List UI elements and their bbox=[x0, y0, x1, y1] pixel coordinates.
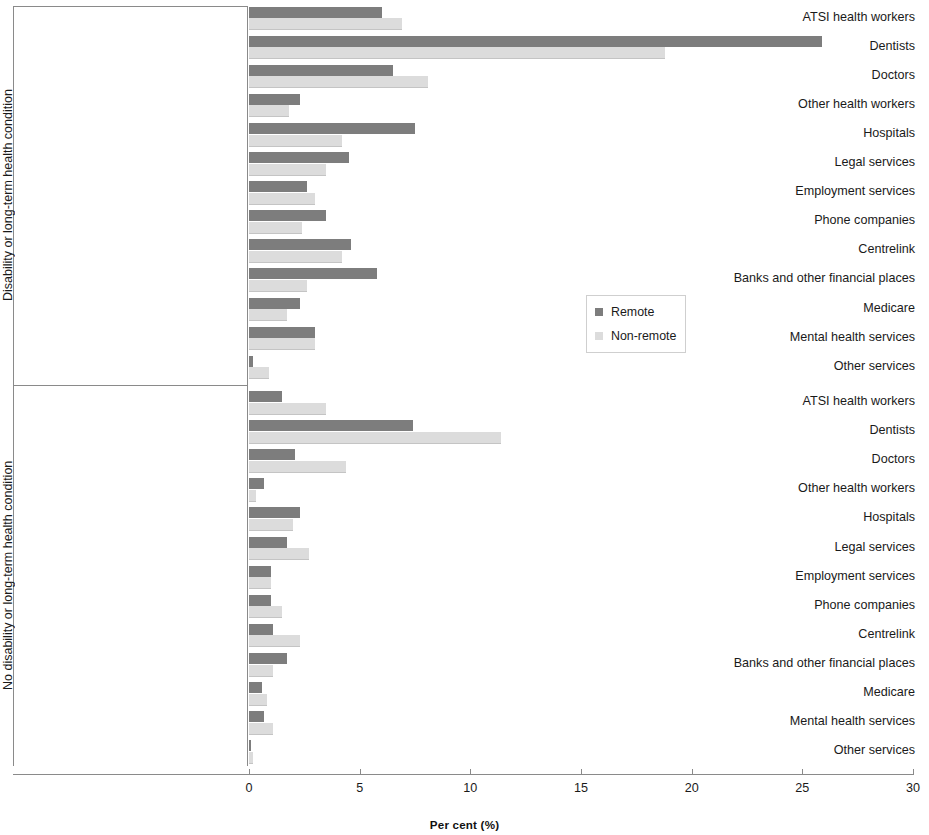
bar-non-remote bbox=[249, 251, 342, 263]
bar-non-remote bbox=[249, 105, 289, 117]
bar-remote bbox=[249, 740, 251, 751]
legend-label-remote: Remote bbox=[611, 305, 654, 319]
category-label: ATSI health workers bbox=[694, 11, 929, 24]
x-axis-title: Per cent (%) bbox=[0, 818, 929, 831]
bar-non-remote bbox=[249, 490, 256, 502]
x-tick-label: 5 bbox=[340, 781, 380, 795]
x-tick-label: 25 bbox=[782, 781, 822, 795]
x-tick bbox=[913, 769, 914, 775]
bar-non-remote bbox=[249, 18, 402, 30]
bar-remote bbox=[249, 711, 264, 722]
bar-remote bbox=[249, 181, 307, 192]
bar-remote bbox=[249, 566, 271, 577]
category-label: Doctors bbox=[694, 453, 929, 466]
bar-non-remote bbox=[249, 432, 501, 444]
legend-item-non-remote: Non-remote bbox=[595, 329, 676, 343]
bar-non-remote bbox=[249, 47, 665, 59]
category-label: Mental health services bbox=[694, 715, 929, 728]
plot-area: Disability or long-term health condition… bbox=[0, 0, 929, 775]
bar-non-remote bbox=[249, 694, 267, 706]
category-label: Banks and other financial places bbox=[694, 657, 929, 670]
bar-remote bbox=[249, 391, 282, 402]
bar-remote bbox=[249, 268, 377, 279]
bar-remote bbox=[249, 653, 287, 664]
bar-remote bbox=[249, 537, 287, 548]
panel-no-disability-border bbox=[13, 385, 248, 766]
category-label: Centrelink bbox=[694, 243, 929, 256]
category-label: Other services bbox=[694, 360, 929, 373]
bar-remote bbox=[249, 507, 300, 518]
bar-non-remote bbox=[249, 338, 315, 350]
group-axis-title-no-disability: No disability or long-term health condit… bbox=[0, 385, 16, 766]
category-label: Mental health services bbox=[694, 331, 929, 344]
bar-non-remote bbox=[249, 309, 287, 321]
category-label: Medicare bbox=[694, 302, 929, 315]
bar-remote bbox=[249, 36, 822, 47]
x-tick bbox=[360, 769, 361, 775]
bar-non-remote bbox=[249, 461, 346, 473]
category-label: Employment services bbox=[694, 570, 929, 583]
bar-non-remote bbox=[249, 577, 271, 589]
bar-remote bbox=[249, 152, 349, 163]
bar-non-remote bbox=[249, 403, 326, 415]
bar-remote bbox=[249, 7, 382, 18]
x-tick-label: 20 bbox=[672, 781, 712, 795]
legend-swatch-remote-icon bbox=[595, 308, 603, 316]
category-label: Legal services bbox=[694, 156, 929, 169]
legend-item-remote: Remote bbox=[595, 305, 654, 319]
x-tick-label: 0 bbox=[229, 781, 269, 795]
bar-non-remote bbox=[249, 164, 326, 176]
category-label: Dentists bbox=[694, 424, 929, 437]
bar-non-remote bbox=[249, 635, 300, 647]
category-label: Employment services bbox=[694, 185, 929, 198]
bar-remote bbox=[249, 94, 300, 105]
bar-non-remote bbox=[249, 519, 293, 531]
bar-remote bbox=[249, 449, 295, 460]
bar-remote bbox=[249, 298, 300, 309]
category-label: Hospitals bbox=[694, 127, 929, 140]
bar-remote bbox=[249, 65, 393, 76]
category-label: Other services bbox=[694, 744, 929, 757]
bar-remote bbox=[249, 239, 351, 250]
bar-chart: Disability or long-term health condition… bbox=[0, 0, 929, 835]
category-label: Phone companies bbox=[694, 599, 929, 612]
bar-remote bbox=[249, 595, 271, 606]
bar-non-remote bbox=[249, 135, 342, 147]
legend-label-non-remote: Non-remote bbox=[611, 329, 676, 343]
x-tick bbox=[581, 769, 582, 775]
bar-remote bbox=[249, 123, 415, 134]
bar-non-remote bbox=[249, 548, 309, 560]
bar-non-remote bbox=[249, 665, 273, 677]
x-tick bbox=[249, 769, 250, 775]
category-label: Phone companies bbox=[694, 214, 929, 227]
x-tick bbox=[802, 769, 803, 775]
category-label: Centrelink bbox=[694, 628, 929, 641]
category-label: Banks and other financial places bbox=[694, 272, 929, 285]
x-tick bbox=[692, 769, 693, 775]
bar-non-remote bbox=[249, 280, 307, 292]
category-label: Legal services bbox=[694, 541, 929, 554]
bar-remote bbox=[249, 327, 315, 338]
x-tick bbox=[470, 769, 471, 775]
bar-non-remote bbox=[249, 606, 282, 618]
bar-non-remote bbox=[249, 193, 315, 205]
bar-non-remote bbox=[249, 367, 269, 379]
bar-remote bbox=[249, 682, 262, 693]
bar-non-remote bbox=[249, 752, 253, 764]
panel-disability-border bbox=[13, 6, 248, 385]
legend-swatch-non-remote-icon bbox=[595, 332, 603, 340]
bar-remote bbox=[249, 210, 326, 221]
bar-remote bbox=[249, 624, 273, 635]
bar-remote bbox=[249, 420, 413, 431]
category-label: Other health workers bbox=[694, 98, 929, 111]
x-tick-label: 30 bbox=[893, 781, 929, 795]
x-tick-label: 15 bbox=[561, 781, 601, 795]
x-axis-line bbox=[13, 774, 913, 775]
bar-non-remote bbox=[249, 222, 302, 234]
group-axis-title-disability: Disability or long-term health condition bbox=[0, 6, 16, 385]
category-label: Other health workers bbox=[694, 482, 929, 495]
category-label: Medicare bbox=[694, 686, 929, 699]
x-tick-label: 10 bbox=[450, 781, 490, 795]
category-label: Doctors bbox=[694, 69, 929, 82]
bar-non-remote bbox=[249, 76, 428, 88]
